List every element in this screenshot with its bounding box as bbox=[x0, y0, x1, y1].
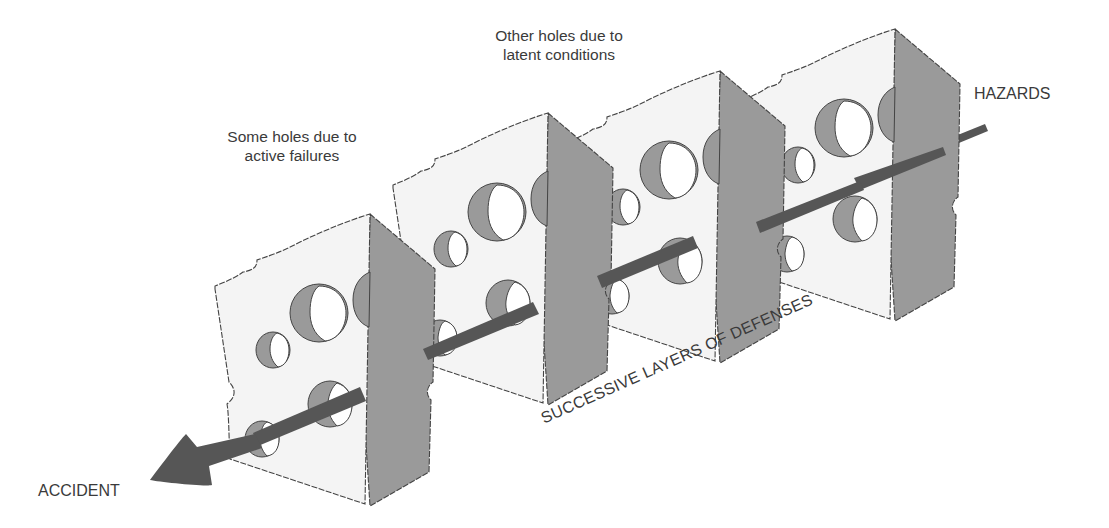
latent-conditions-line1: Other holes due to bbox=[484, 26, 634, 45]
latent-conditions-line2: latent conditions bbox=[484, 45, 634, 64]
active-failures-line1: Some holes due to bbox=[212, 127, 372, 146]
defense-layer-1 bbox=[215, 214, 435, 506]
active-failures-line2: active failures bbox=[212, 146, 372, 165]
latent-conditions-label: Other holes due to latent conditions bbox=[484, 26, 634, 64]
accident-label: ACCIDENT bbox=[38, 481, 120, 500]
hazards-label: HAZARDS bbox=[974, 84, 1050, 103]
swiss-cheese-diagram bbox=[0, 0, 1109, 528]
active-failures-label: Some holes due to active failures bbox=[212, 127, 372, 165]
